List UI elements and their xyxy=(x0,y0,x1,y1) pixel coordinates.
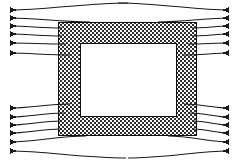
flow-line xyxy=(11,18,90,22)
flow-line xyxy=(11,3,128,10)
flow-line xyxy=(192,34,228,36)
flow-line xyxy=(193,129,228,133)
flow-line xyxy=(11,121,61,125)
flow-line xyxy=(118,3,228,10)
flow-line xyxy=(192,26,228,28)
core-inner-window-outline xyxy=(80,43,176,116)
flow-line xyxy=(168,136,228,142)
flow-line xyxy=(128,151,228,158)
flow-line xyxy=(11,113,64,117)
figure-canvas: Rectangular core frame with converging f… xyxy=(0,0,238,163)
flow-line xyxy=(11,129,61,133)
flow-line xyxy=(11,26,62,28)
flow-line xyxy=(11,151,126,158)
core-frame-group xyxy=(58,22,196,135)
flow-line xyxy=(11,34,62,36)
flow-line xyxy=(11,136,86,142)
flow-line xyxy=(158,18,228,22)
flow-line xyxy=(193,121,228,125)
core-frame-hatch xyxy=(58,22,196,135)
flow-field-diagram xyxy=(0,0,238,163)
